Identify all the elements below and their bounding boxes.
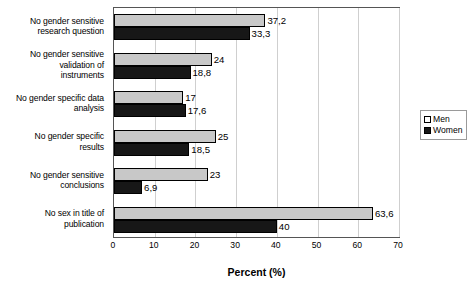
x-axis-title: Percent (%) — [113, 266, 400, 278]
bar-men — [114, 91, 183, 104]
bar-value-label: 17 — [185, 92, 196, 103]
category-label: No gender sensitiveconclusions — [0, 170, 104, 191]
bar-group: 1717,6 — [114, 85, 399, 124]
bar-value-label: 37,2 — [267, 15, 286, 26]
legend-item-women: Women — [424, 125, 462, 136]
bar-women — [114, 220, 277, 233]
bar-men — [114, 168, 208, 181]
bar-value-label: 25 — [218, 131, 229, 142]
bar-women — [114, 143, 189, 156]
x-tick-label: 50 — [312, 240, 322, 250]
bar-men — [114, 130, 216, 143]
legend-swatch-men-icon — [424, 116, 431, 123]
bar-women — [114, 66, 191, 79]
bar-value-label: 18,8 — [193, 67, 212, 78]
bar-group: 2518,5 — [114, 124, 399, 163]
category-label: No gender specificresults — [0, 131, 104, 152]
bar-value-label: 33,3 — [252, 28, 271, 39]
bar-women — [114, 104, 186, 117]
bar-value-label: 17,6 — [188, 105, 207, 116]
bar-group: 37,233,3 — [114, 8, 399, 47]
x-tick-label: 10 — [149, 240, 159, 250]
bar-men — [114, 53, 212, 66]
bar-value-label: 23 — [210, 169, 221, 180]
category-label: No gender sensitiveresearch question — [0, 16, 104, 37]
bar-women — [114, 181, 142, 194]
x-tick-label: 0 — [111, 240, 116, 250]
bar-group: 2418,8 — [114, 47, 399, 86]
bar-chart: No gender sensitiveresearch questionNo g… — [0, 0, 472, 289]
category-label: No sex in title ofpublication — [0, 208, 104, 229]
category-label: No gender sensitivevalidation ofinstrume… — [0, 49, 104, 80]
x-tick-label: 70 — [393, 240, 403, 250]
bar-group: 236,9 — [114, 162, 399, 201]
bar-men — [114, 14, 265, 27]
bar-value-label: 6,9 — [144, 182, 157, 193]
category-label: No gender specific dataanalysis — [0, 93, 104, 114]
bar-value-label: 63,6 — [375, 208, 394, 219]
legend: Men Women — [420, 110, 467, 140]
bar-value-label: 24 — [214, 54, 225, 65]
x-tick-label: 30 — [230, 240, 240, 250]
x-axis-ticks: 010203040506070 — [113, 240, 400, 254]
bar-value-label: 18,5 — [191, 144, 210, 155]
bar-group: 63,640 — [114, 201, 399, 240]
x-tick-label: 60 — [353, 240, 363, 250]
bar-value-label: 40 — [279, 221, 290, 232]
legend-swatch-women-icon — [424, 127, 431, 134]
x-tick-label: 20 — [190, 240, 200, 250]
x-tick-label: 40 — [271, 240, 281, 250]
legend-item-men: Men — [424, 114, 462, 125]
legend-label-men: Men — [433, 114, 450, 125]
bar-women — [114, 27, 250, 40]
gridline-70 — [399, 8, 400, 237]
bar-men — [114, 207, 373, 220]
plot-area: 37,233,32418,81717,62518,5236,963,640 — [113, 7, 400, 238]
category-axis-labels: No gender sensitiveresearch questionNo g… — [0, 7, 108, 238]
legend-label-women: Women — [433, 125, 462, 136]
